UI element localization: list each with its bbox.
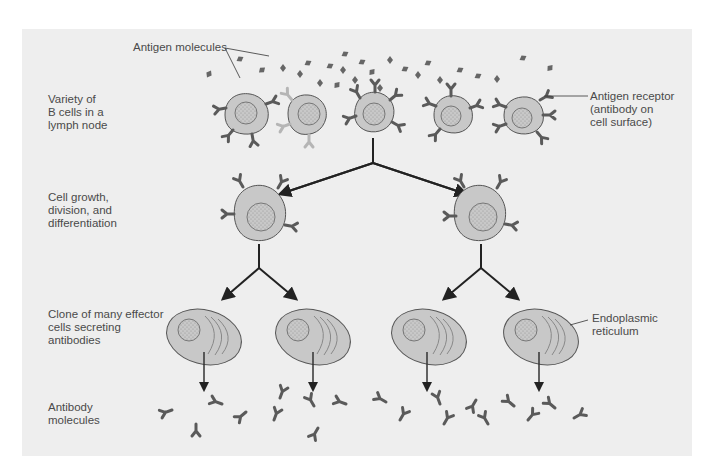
b-cell-2 <box>277 88 326 147</box>
stage-label-growth: Cell growth, division, and differentiati… <box>48 191 117 230</box>
antibody-molecules <box>159 385 586 440</box>
callout-antigen: Antigen molecules <box>133 41 227 54</box>
b-cell-3 <box>343 80 404 132</box>
effector-cell-3 <box>385 301 472 373</box>
b-cell-1 <box>213 94 278 147</box>
dividing-cell-left <box>222 175 298 241</box>
dividing-cell-right <box>444 175 518 241</box>
stage-label-b-cells: Variety of B cells in a lymph node <box>48 93 107 132</box>
stage-label-clone: Clone of many effector cells secreting a… <box>48 308 164 347</box>
effector-cell-4 <box>497 301 584 373</box>
callout-er: Endoplasmic reticulum <box>592 312 658 338</box>
b-cell-5 <box>493 91 555 144</box>
b-cell-4 <box>423 84 482 141</box>
antigen-molecules <box>204 49 554 92</box>
stage-label-antibodies: Antibody molecules <box>48 401 100 427</box>
callout-receptor: Antigen receptor (antibody on cell surfa… <box>590 90 674 129</box>
